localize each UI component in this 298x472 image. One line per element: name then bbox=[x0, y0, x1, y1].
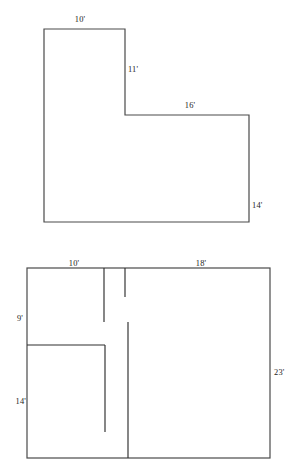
figure-bottom-floor-plan: 10' 18' 9' 14' 23' bbox=[16, 259, 285, 458]
dim-label-right-14ft: 14' bbox=[252, 201, 263, 210]
dim-label-plan-lower-left-14ft: 14' bbox=[16, 397, 27, 406]
l-shape-outline bbox=[44, 29, 249, 222]
dim-label-top-10ft: 10' bbox=[75, 15, 86, 24]
dim-label-plan-top-right-18ft: 18' bbox=[196, 259, 207, 268]
figure-sheet: 10' 11' 16' 14' 10' 18' 9' 14' 23' bbox=[0, 0, 298, 472]
dim-label-plan-top-left-10ft: 10' bbox=[69, 259, 80, 268]
floor-plan-outline bbox=[27, 268, 270, 458]
dim-label-inner-vertical-11ft: 11' bbox=[128, 65, 138, 74]
figure-top-l-shape: 10' 11' 16' 14' bbox=[44, 15, 263, 222]
dim-label-plan-right-23ft: 23' bbox=[274, 368, 285, 377]
diagram-canvas: 10' 11' 16' 14' 10' 18' 9' 14' 23' bbox=[0, 0, 298, 472]
dim-label-upper-right-16ft: 16' bbox=[185, 101, 196, 110]
dim-label-plan-upper-left-9ft: 9' bbox=[17, 314, 23, 323]
